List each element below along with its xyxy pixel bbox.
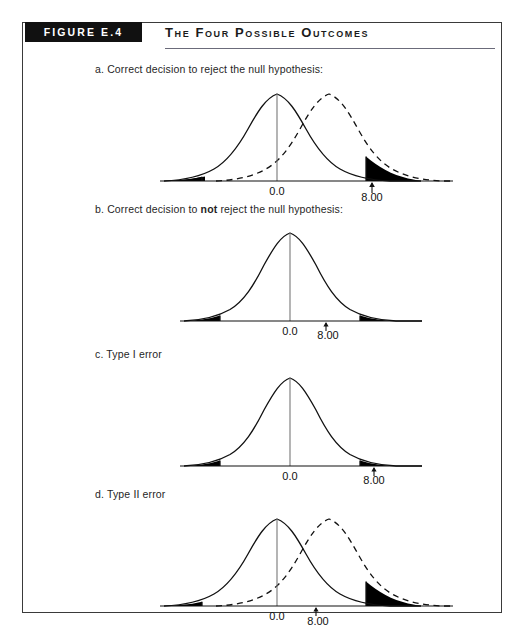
null-distribution-curve — [164, 94, 421, 181]
observed-value-label: 8.00 — [307, 615, 328, 626]
panel-d-plot: 0.0 8.00 — [156, 506, 456, 626]
panel-c-label-text: Type I error — [106, 348, 161, 360]
observed-value-label: 8.00 — [363, 474, 384, 484]
center-value-label: 0.0 — [269, 610, 284, 622]
panel-c-label-prefix: c. — [95, 348, 103, 360]
panel-d-label-prefix: d. — [95, 488, 104, 500]
alternative-distribution-curve — [216, 94, 453, 181]
panel-a-label-prefix: a. — [95, 63, 104, 75]
panel-b-label-text: Correct decision to — [107, 203, 200, 215]
figure-title: The Four Possible Outcomes — [165, 25, 369, 40]
panel-b-label-bold: not — [201, 203, 218, 215]
panel-d-label-text: Type II error — [107, 488, 166, 500]
title-divider — [165, 48, 495, 49]
null-distribution-curve — [184, 233, 422, 321]
panel-a-label: a. Correct decision to reject the null h… — [95, 63, 323, 75]
observed-value-label: 8.00 — [361, 191, 382, 201]
panel-b-label-prefix: b. — [95, 203, 104, 215]
figure-frame: FIGURE E.4 The Four Possible Outcomes a.… — [22, 22, 502, 613]
observed-value-label: 8.00 — [317, 329, 338, 339]
panel-b-label: b. Correct decision to not reject the nu… — [95, 203, 343, 215]
alternative-distribution-curve — [216, 519, 453, 606]
panel-a-label-text: Correct decision to reject the null hypo… — [107, 63, 323, 75]
null-distribution-curve — [184, 378, 422, 466]
panel-d-label: d. Type II error — [95, 488, 166, 500]
panel-c-label: c. Type I error — [95, 348, 162, 360]
figure-number-tag: FIGURE E.4 — [25, 22, 142, 42]
panel-b-plot: 0.0 8.00 — [178, 221, 428, 339]
panel-b-label-suffix: reject the null hypothesis: — [217, 203, 343, 215]
center-value-label: 0.0 — [269, 185, 284, 197]
center-value-label: 0.0 — [282, 325, 297, 337]
panel-c-plot: 0.0 8.00 — [178, 366, 428, 484]
null-distribution-curve — [164, 519, 421, 606]
center-value-label: 0.0 — [282, 470, 297, 482]
panel-a-plot: 0.0 8.00 — [156, 81, 456, 201]
